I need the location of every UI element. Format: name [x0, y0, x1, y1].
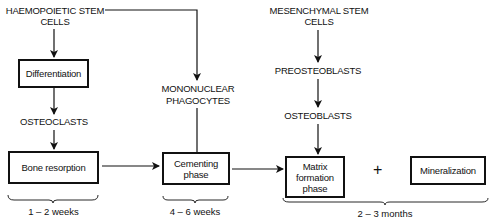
haemopoietic-stem-cells-label: HAEMOPOIETIC STEM CELLS [3, 6, 107, 27]
preosteoblasts-label: PREOSTEOBLASTS [268, 66, 368, 76]
osteoblasts-label: OSTEOBLASTS [278, 111, 358, 121]
matrix-formation-phase-box: Matrix formation phase [285, 156, 345, 198]
mononuclear-line2: PHAGOCYTES [158, 96, 238, 106]
osteoclasts-label: OSTEOCLASTS [10, 117, 98, 127]
matrix-line3: phase [303, 183, 328, 194]
cementing-line2: phase [184, 169, 209, 180]
cementing-line1: Cementing [174, 158, 218, 169]
plus-sign: + [373, 162, 382, 178]
mononuclear-phagocytes-label: MONONUCLEAR PHAGOCYTES [158, 84, 238, 106]
haemopoietic-line1: HAEMOPOIETIC STEM [3, 6, 107, 16]
duration-resorption: 1 – 2 weeks [8, 206, 99, 217]
mineralization-box: Mineralization [410, 156, 486, 185]
duration-braces [8, 195, 488, 205]
haemopoietic-line2: CELLS [3, 17, 107, 27]
mineralization-label: Mineralization [420, 165, 476, 176]
mesenchymal-line1: MESENCHYMAL STEM [264, 6, 374, 16]
matrix-line1: Matrix [303, 161, 328, 172]
cementing-phase-box: Cementing phase [162, 152, 230, 185]
bone-resorption-label: Bone resorption [21, 162, 85, 173]
connector-lines [0, 0, 490, 220]
bone-resorption-box: Bone resorption [8, 151, 99, 184]
mesenchymal-line2: CELLS [264, 17, 374, 27]
mesenchymal-stem-cells-label: MESENCHYMAL STEM CELLS [264, 6, 374, 27]
matrix-line2: formation [296, 172, 334, 183]
duration-formation: 2 – 3 months [340, 208, 430, 219]
duration-cementing: 4 – 6 weeks [160, 206, 230, 217]
differentiation-label: Differentiation [26, 68, 81, 79]
differentiation-box: Differentiation [18, 59, 89, 88]
mononuclear-line1: MONONUCLEAR [158, 84, 238, 94]
